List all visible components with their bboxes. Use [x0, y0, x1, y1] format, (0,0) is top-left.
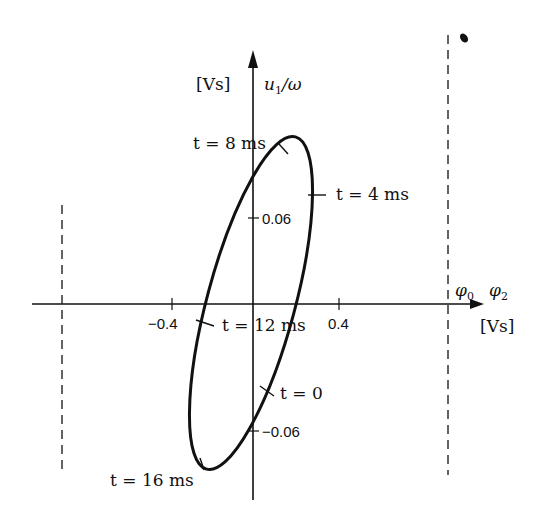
- x-axis-phi2: φ2: [489, 282, 508, 302]
- y-axis-label: u1/ω: [264, 76, 302, 96]
- trajectory-ellipse: [164, 125, 338, 480]
- y-axis-unit: [Vs]: [196, 76, 230, 93]
- flux-linkage-diagram: [Vs] u1/ω φ0 φ2 [Vs] −0.4 0.4 0.06 −0.06…: [0, 0, 546, 523]
- phi2-symbol: φ: [489, 280, 501, 300]
- y-axis-var: u: [264, 74, 275, 94]
- x-tick-label-neg: −0.4: [148, 316, 178, 331]
- phi2-sub: 2: [501, 290, 508, 303]
- y-tick-label-pos: 0.06: [262, 211, 291, 226]
- x-axis-phi0: φ0: [455, 282, 474, 302]
- annotation-t12: t = 12 ms: [222, 317, 306, 334]
- x-axis-unit: [Vs]: [480, 318, 514, 335]
- phi0-symbol: φ: [455, 280, 467, 300]
- marker-t12: [196, 320, 214, 326]
- phi0-sub: 0: [467, 290, 474, 303]
- annotation-t8: t = 8 ms: [193, 135, 266, 152]
- x-tick-label-pos: 0.4: [328, 316, 349, 331]
- annotation-t0: t = 0: [280, 385, 323, 402]
- y-axis-rest: /ω: [282, 74, 302, 94]
- ink-speck: [458, 32, 469, 44]
- y-axis-arrow-icon: [248, 50, 258, 68]
- annotation-t16: t = 16 ms: [110, 472, 194, 489]
- annotation-t4: t = 4 ms: [336, 186, 409, 203]
- marker-t8: [279, 144, 288, 154]
- y-axis-sub: 1: [275, 84, 282, 97]
- y-tick-label-neg: −0.06: [262, 424, 300, 439]
